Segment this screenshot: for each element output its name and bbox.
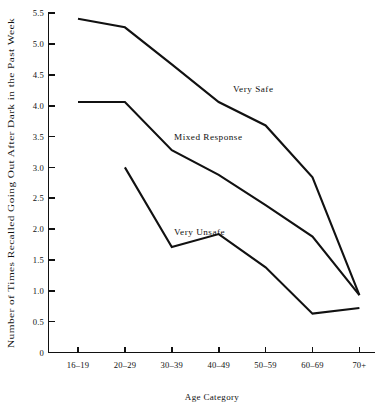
y-tick-group — [49, 13, 55, 322]
x-tick-group — [78, 347, 359, 353]
y-tick-label: 3.0 — [33, 163, 44, 173]
y-tick-label: 5.0 — [33, 39, 44, 49]
y-axis: 00.51.01.52.02.53.03.54.04.55.05.5 — [33, 8, 55, 357]
y-axis-title: Number of Times Recalled Going Out After… — [6, 18, 16, 348]
y-tick-label: 4.0 — [33, 101, 44, 111]
y-tick-label: 1.5 — [33, 255, 44, 265]
x-tick-label: 20–29 — [114, 360, 136, 370]
x-tick-label: 60–69 — [301, 360, 323, 370]
x-tick-label: 50–59 — [254, 360, 276, 370]
series-line-mixed-response — [78, 102, 359, 295]
x-tick-label: 70+ — [352, 360, 366, 370]
series-lines — [78, 19, 359, 314]
series-label-mixed-response: Mixed Response — [174, 132, 243, 142]
y-tick-label: 0 — [40, 348, 45, 358]
y-tick-label: 2.5 — [33, 193, 44, 203]
y-tick-label: 4.5 — [33, 70, 44, 80]
y-tick-label: 3.5 — [33, 132, 44, 142]
x-axis: 16–1920–2930–3940–4950–5960–6970+ — [49, 347, 376, 371]
x-tick-label: 16–19 — [67, 360, 89, 370]
y-tick-label: 1.0 — [33, 286, 44, 296]
line-chart: 00.51.01.52.02.53.03.54.04.55.05.5 16–19… — [0, 0, 379, 407]
series-label-very-safe: Very Safe — [233, 84, 273, 94]
series-line-very-safe — [78, 19, 359, 295]
chart-canvas: 00.51.01.52.02.53.03.54.04.55.05.5 16–19… — [0, 0, 379, 407]
x-axis-title: Age Category — [185, 392, 240, 402]
x-tick-label: 30–39 — [161, 360, 183, 370]
y-tick-label: 5.5 — [33, 8, 44, 18]
series-label-very-unsafe: Very Unsafe — [174, 227, 225, 237]
y-tick-label-group: 00.51.01.52.02.53.03.54.04.55.05.5 — [33, 8, 44, 357]
y-tick-label: 0.5 — [33, 317, 44, 327]
x-tick-label-group: 16–1920–2930–3940–4950–5960–6970+ — [67, 360, 367, 370]
x-tick-label: 40–49 — [207, 360, 229, 370]
y-tick-label: 2.0 — [33, 224, 44, 234]
series-annotations: Very SafeMixed ResponseVery Unsafe — [174, 84, 273, 237]
